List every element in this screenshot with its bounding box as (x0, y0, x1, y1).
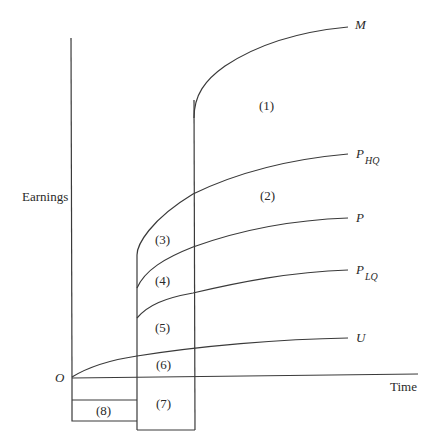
time-axis (72, 374, 418, 378)
region-label-8: (8) (96, 403, 111, 418)
svg-text:HQ: HQ (364, 155, 380, 166)
earnings-axis (71, 38, 72, 378)
svg-text:P: P (355, 262, 364, 277)
origin-label: O (55, 370, 65, 385)
label-p-hq: P HQ (355, 146, 380, 166)
label-u: U (356, 330, 367, 345)
svg-text:LQ: LQ (364, 271, 379, 282)
svg-text:P: P (355, 146, 364, 161)
label-p: P (355, 210, 364, 225)
region-label-1: (1) (259, 98, 274, 113)
region-label-7: (7) (156, 396, 171, 411)
region-label-3: (3) (155, 232, 170, 247)
region-label-5: (5) (155, 320, 170, 335)
x-axis-label: Time (390, 379, 417, 394)
curve-u (72, 338, 348, 377)
label-p-lq: P LQ (355, 262, 379, 282)
region-label-6: (6) (156, 357, 171, 372)
region-label-2: (2) (260, 188, 275, 203)
y-axis-label: Earnings (22, 189, 68, 204)
earnings-diagram: M P HQ P P LQ U Earnings Time O (1) (2) … (0, 0, 433, 446)
training-end-line (194, 100, 195, 430)
region-label-4: (4) (155, 273, 170, 288)
label-m: M (354, 17, 367, 32)
